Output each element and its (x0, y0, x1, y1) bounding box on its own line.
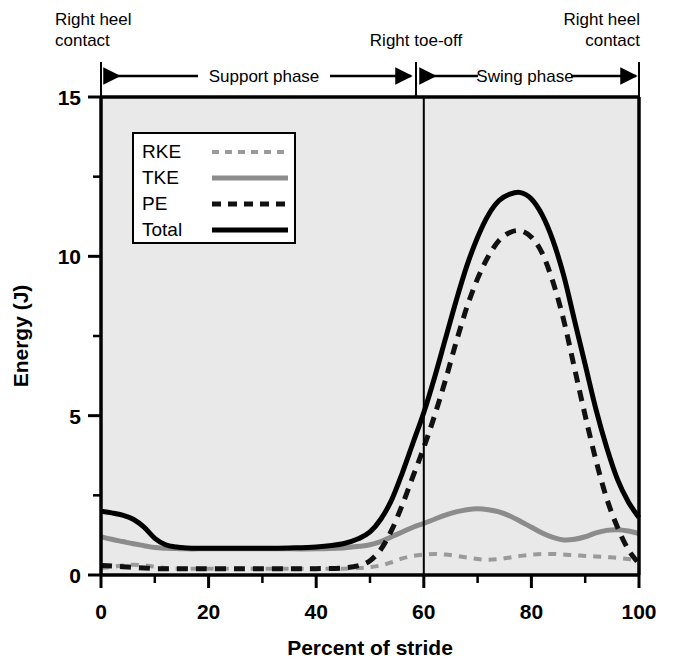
event-left-line1: Right heel (55, 10, 132, 29)
x-tick-label: 100 (621, 600, 656, 623)
x-tick-label: 20 (197, 600, 220, 623)
y-tick-label: 15 (58, 86, 82, 109)
legend-label-rke: RKE (142, 141, 181, 162)
x-axis-title: Percent of stride (287, 636, 453, 659)
event-left-line2: contact (55, 31, 110, 50)
x-tick-label: 0 (95, 600, 107, 623)
event-mid-label: Right toe-off (370, 31, 463, 50)
x-tick-label: 40 (305, 600, 328, 623)
y-axis-title: Energy (J) (9, 285, 32, 388)
x-tick-label: 80 (520, 600, 543, 623)
swing-phase-label: Swing phase (476, 67, 573, 86)
y-tick-label: 5 (69, 405, 81, 428)
chart-legend: RKE TKE PE Total (133, 133, 295, 243)
chart-canvas: 020406080100051015 Support phase (0, 0, 682, 670)
event-right-line2: contact (585, 31, 640, 50)
event-right-line1: Right heel (563, 10, 640, 29)
y-tick-label: 0 (69, 564, 81, 587)
x-tick-label: 60 (412, 600, 435, 623)
legend-label-total: Total (142, 219, 182, 240)
y-tick-label: 10 (58, 245, 81, 268)
legend-label-pe: PE (142, 193, 167, 214)
legend-label-tke: TKE (142, 167, 179, 188)
energy-vs-stride-chart: 020406080100051015 Support phase (0, 0, 682, 670)
support-phase-label: Support phase (209, 67, 320, 86)
